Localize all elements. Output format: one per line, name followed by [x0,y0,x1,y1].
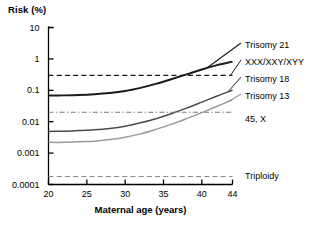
x-axis-tick-label: 30 [120,189,130,199]
series-label-trisomy18: Trisomy 18 [245,74,289,84]
series-label-triploidy: Triploidy [245,171,279,181]
y-axis-tick-label: 0.01 [0,117,40,127]
series-label-xxx-xxy-xyy: XXX/XXY/XYY [245,57,304,67]
chart-figure: Risk (%) 1010.10.010.0010.0001 202530354… [0,0,324,227]
y-axis-tick-label: 0.001 [0,148,40,158]
x-axis-title: Maternal age (years) [49,204,233,215]
leader-line [229,94,241,101]
series-line-trisomy-21 [49,62,233,96]
leader-line [228,77,241,92]
x-axis-tick-label: 35 [158,189,168,199]
series-line-trisomy-13 [49,100,233,143]
y-axis-tick-label: 0.0001 [0,180,40,190]
x-axis-tick-label: 25 [82,189,92,199]
y-axis-tick-label: 10 [0,23,40,33]
series-label-trisomy21: Trisomy 21 [245,40,289,50]
x-axis-tick-label: 20 [43,189,53,199]
y-axis-tick-label: 1 [0,54,40,64]
x-axis-tick-label: 44 [227,189,237,199]
series-label-x45: 45, X [245,114,266,124]
series-label-trisomy13: Trisomy 13 [245,91,289,101]
y-axis-tick-label: 0.1 [0,85,40,95]
x-axis-tick-label: 40 [197,189,207,199]
